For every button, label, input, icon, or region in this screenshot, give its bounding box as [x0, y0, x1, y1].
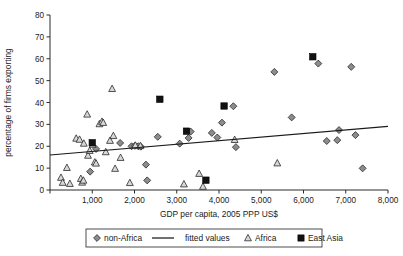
axes	[50, 15, 388, 190]
x-tick-label: 7,000	[336, 196, 357, 205]
data-point-triangle	[274, 159, 281, 165]
data-point-diamond	[288, 114, 295, 121]
data-point-triangle	[112, 165, 119, 171]
y-tick-label: 50	[35, 77, 45, 86]
y-tick-label: 40	[35, 99, 45, 108]
series-east-asia	[89, 54, 316, 184]
data-point-triangle	[181, 180, 188, 186]
chart-canvas: 010203040506070801,0002,0003,0004,0005,0…	[0, 0, 403, 256]
legend-label: fitted values	[185, 233, 230, 243]
data-point-triangle	[63, 164, 70, 170]
data-point-square	[89, 140, 95, 146]
square-marker-icon	[298, 235, 304, 241]
legend-label: East Asia	[308, 233, 343, 243]
y-tick-label: 30	[35, 120, 45, 129]
x-tick-label: 5,000	[251, 196, 272, 205]
scatter-chart: 010203040506070801,0002,0003,0004,0005,0…	[0, 0, 403, 256]
data-point-diamond	[218, 119, 225, 126]
data-point-diamond	[315, 60, 322, 67]
legend-label: Africa	[255, 233, 277, 243]
y-tick-label: 20	[35, 142, 45, 151]
legend-label: non-Africa	[104, 233, 143, 243]
data-point-triangle	[66, 180, 73, 186]
x-axis-title: GDP per capita, 2005 PPP US$	[160, 209, 278, 219]
data-point-triangle	[84, 111, 91, 117]
data-point-triangle	[109, 85, 116, 91]
data-point-diamond	[230, 103, 237, 110]
data-point-square	[203, 177, 209, 183]
data-point-triangle	[110, 132, 117, 138]
data-point-diamond	[117, 139, 124, 146]
data-point-diamond	[232, 144, 239, 151]
data-point-diamond	[348, 63, 355, 70]
data-point-triangle	[86, 147, 93, 153]
data-point-diamond	[185, 134, 192, 141]
data-point-diamond	[352, 132, 359, 139]
y-axis-title: percentage of firms exporting	[3, 48, 13, 157]
data-point-triangle	[102, 148, 109, 154]
data-point-square	[183, 128, 189, 134]
data-point-square	[221, 103, 227, 109]
data-point-triangle	[117, 154, 124, 160]
x-tick-label: 1,000	[82, 196, 103, 205]
x-tick-label: 4,000	[209, 196, 230, 205]
x-axis-ticks: 1,0002,0003,0004,0005,0006,0007,0008,000	[50, 190, 399, 205]
data-point-diamond	[144, 177, 151, 184]
x-tick-label: 2,000	[124, 196, 145, 205]
x-tick-label: 3,000	[167, 196, 188, 205]
data-point-diamond	[208, 129, 215, 136]
data-point-diamond	[87, 168, 94, 175]
data-point-diamond	[142, 161, 149, 168]
data-point-diamond	[271, 68, 278, 75]
series-non-africa	[87, 60, 367, 184]
y-tick-label: 10	[35, 164, 45, 173]
data-point-diamond	[214, 134, 221, 141]
data-point-triangle	[58, 174, 65, 180]
data-point-diamond	[323, 138, 330, 145]
chart-legend: non-Africafitted valuesAfricaEast Asia	[86, 229, 343, 247]
data-point-triangle	[196, 170, 203, 176]
data-point-diamond	[359, 165, 366, 172]
data-point-square	[157, 96, 163, 102]
y-tick-label: 0	[39, 186, 44, 195]
x-tick-label: 8,000	[378, 196, 399, 205]
data-point-diamond	[334, 137, 341, 144]
data-point-diamond	[154, 133, 161, 140]
data-point-square	[310, 54, 316, 60]
y-axis-ticks: 01020304050607080	[35, 11, 50, 195]
data-point-triangle	[200, 183, 207, 189]
data-point-triangle	[126, 179, 133, 185]
y-tick-label: 80	[35, 11, 45, 20]
y-tick-label: 60	[35, 55, 45, 64]
y-tick-label: 70	[35, 33, 45, 42]
x-tick-label: 6,000	[293, 196, 314, 205]
